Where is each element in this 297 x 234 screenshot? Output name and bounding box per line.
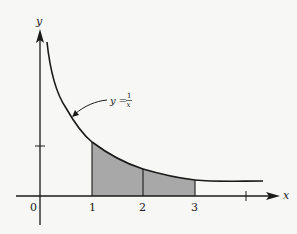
tick-label-3: 3 <box>191 201 198 214</box>
tick-label-0: 0 <box>30 201 37 214</box>
area-under-curve-diagram: y x 0 1 2 3 y = 1 x <box>0 0 297 234</box>
curve-label-denominator: x <box>127 101 131 109</box>
curve-label-numerator: 1 <box>127 92 131 100</box>
y-axis-label: y <box>35 15 43 28</box>
tick-label-2: 2 <box>139 201 146 214</box>
tick-label-1: 1 <box>89 201 96 214</box>
curve-reciprocal <box>47 42 263 181</box>
x-axis-label: x <box>283 189 290 202</box>
curve-label-lhs: y = <box>109 95 127 106</box>
diagram-canvas: y x 0 1 2 3 y = 1 x <box>0 0 297 234</box>
annotation-leader <box>75 100 107 114</box>
